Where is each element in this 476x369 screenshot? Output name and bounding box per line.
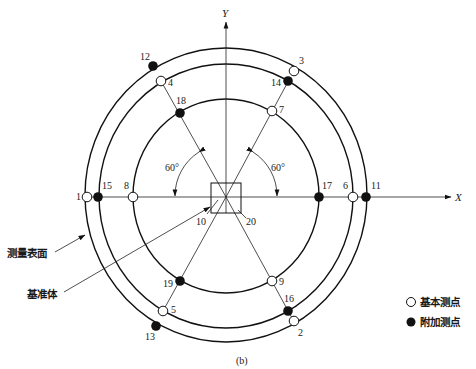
- basic-point-8: [128, 192, 138, 202]
- angle-arcs: 60° 60°: [165, 152, 285, 196]
- additional-point-12: [148, 61, 158, 71]
- radial-line-lower-left: [163, 197, 226, 311]
- basic-point-5: [158, 306, 168, 316]
- point-label-15: 15: [102, 180, 112, 191]
- leader-10: [207, 200, 218, 214]
- point-label-14: 14: [271, 77, 281, 88]
- y-axis-label: Y: [222, 7, 230, 19]
- measurement-points: 115817611124183147195139162: [76, 51, 381, 342]
- additional-point-11: [361, 192, 371, 202]
- additional-point-15: [93, 192, 103, 202]
- leader-20: [238, 210, 246, 218]
- point-label-18: 18: [176, 95, 186, 106]
- basic-point-3: [289, 66, 299, 76]
- basic-point-2: [289, 316, 299, 326]
- point-label-2: 2: [298, 327, 303, 338]
- point-label-12: 12: [140, 51, 150, 62]
- center-label-10: 10: [196, 216, 206, 227]
- figure-caption: (b): [236, 355, 248, 367]
- legend: 基本测点 附加测点: [407, 296, 462, 328]
- additional-point-18: [175, 108, 185, 118]
- additional-point-14: [283, 76, 293, 86]
- point-label-13: 13: [145, 331, 155, 342]
- additional-point-19: [175, 276, 185, 286]
- basic-point-1: [82, 192, 92, 202]
- point-label-3: 3: [299, 55, 304, 66]
- additional-point-16: [283, 306, 293, 316]
- point-label-11: 11: [371, 180, 381, 191]
- point-label-17: 17: [322, 180, 332, 191]
- additional-point-17: [314, 192, 324, 202]
- angle-label-right: 60°: [271, 162, 285, 173]
- angle-arc-left: [175, 152, 199, 196]
- measuring-surface-leader: [55, 235, 85, 252]
- basic-point-7: [267, 106, 277, 116]
- measuring-surface-label: 测量表面: [7, 247, 48, 259]
- center-label-20: 20: [246, 216, 256, 227]
- point-label-5: 5: [171, 304, 176, 315]
- point-label-6: 6: [343, 180, 348, 191]
- x-axis-label: X: [454, 191, 463, 203]
- angle-arc-right: [253, 152, 277, 196]
- radial-line-upper-right: [226, 78, 290, 197]
- reference-body-leader: [64, 207, 210, 292]
- point-label-1: 1: [76, 191, 81, 202]
- additional-point-13: [151, 321, 161, 331]
- point-label-9: 9: [279, 276, 284, 287]
- callouts: 测量表面 基准体: [7, 207, 210, 300]
- point-label-4: 4: [168, 77, 173, 88]
- reference-body-label: 基准体: [26, 288, 58, 300]
- legend-basic-label: 基本测点: [419, 296, 461, 308]
- legend-additional-label: 附加测点: [420, 316, 461, 328]
- legend-open-circle-icon: [407, 298, 416, 307]
- radial-line-upper-left: [161, 81, 226, 197]
- measurement-diagram: X Y 60° 60° 10 20 测量表面 基准体 1158176111241…: [0, 0, 476, 369]
- basic-point-4: [156, 76, 166, 86]
- basic-point-9: [267, 276, 277, 286]
- point-label-8: 8: [124, 180, 129, 191]
- angle-label-left: 60°: [165, 162, 179, 173]
- legend-filled-circle-icon: [407, 318, 416, 327]
- point-label-19: 19: [163, 278, 173, 289]
- basic-point-6: [348, 192, 358, 202]
- point-label-7: 7: [279, 104, 284, 115]
- point-label-16: 16: [284, 293, 294, 304]
- radial-line-lower-right: [226, 197, 292, 318]
